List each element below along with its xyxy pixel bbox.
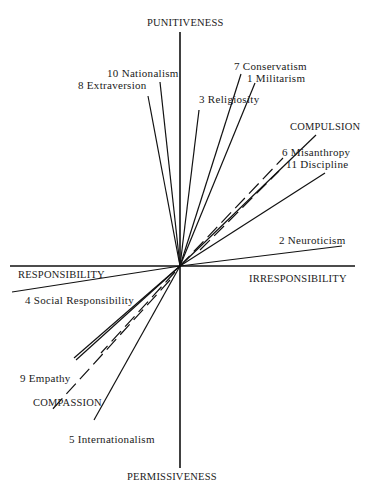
label-6-misanthropy: 6 Misanthropy — [282, 147, 350, 158]
vector-5-internationalism — [94, 266, 180, 420]
axis-label-irresponsibility: IRRESPONSIBILITY — [249, 274, 347, 285]
vector-11-discipline — [180, 173, 325, 266]
label-3-religiosity: 3 Religiosity — [199, 94, 259, 105]
compulsion-axis — [180, 158, 283, 266]
label-9-empathy: 9 Empathy — [20, 373, 71, 384]
label-1-militarism: 1 Militarism — [247, 73, 305, 84]
axis-label-permissiveness: PERMISSIVENESS — [127, 472, 217, 483]
axis-label-responsibility: RESPONSIBILITY — [18, 270, 105, 281]
axis-label-compulsion: COMPULSION — [290, 122, 360, 133]
factor-diagram: PUNITIVENESS PERMISSIVENESS RESPONSIBILI… — [0, 0, 366, 489]
axis-label-compassion: COMPASSION — [33, 398, 102, 409]
label-11-discipline: 11 Discipline — [286, 159, 348, 170]
label-5-internationalism: 5 Internationalism — [69, 434, 155, 445]
label-8-extraversion: 8 Extraversion — [78, 80, 147, 91]
vector-2-neuroticism — [180, 246, 342, 266]
label-4-social-responsibility: 4 Social Responsibility — [25, 295, 134, 306]
label-7-conservatism: 7 Conservatism — [234, 61, 307, 72]
axis-label-punitiveness: PUNITIVENESS — [147, 18, 224, 29]
label-10-nationalism: 10 Nationalism — [107, 68, 179, 79]
label-2-neuroticism: 2 Neuroticism — [279, 235, 346, 246]
